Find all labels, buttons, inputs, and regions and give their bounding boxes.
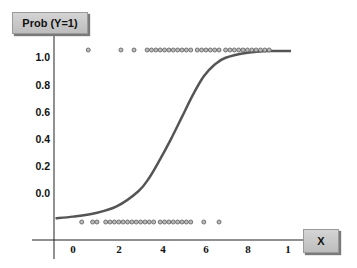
- x-tick: 4: [155, 243, 171, 255]
- data-point: [126, 220, 130, 224]
- data-point: [189, 220, 193, 224]
- data-point: [104, 220, 108, 224]
- data-point: [263, 48, 267, 52]
- data-point: [184, 220, 188, 224]
- y-tick: 0.4: [28, 133, 50, 145]
- data-point: [217, 220, 221, 224]
- data-point: [237, 48, 241, 52]
- x-tick: 2: [111, 243, 127, 255]
- x-tick: 8: [240, 243, 256, 255]
- data-point: [241, 48, 245, 52]
- data-point: [184, 48, 188, 52]
- chart-canvas: [0, 0, 357, 268]
- data-point: [180, 48, 184, 52]
- data-point: [250, 48, 254, 52]
- data-point: [154, 48, 158, 52]
- data-point: [254, 48, 258, 52]
- data-point: [171, 220, 175, 224]
- data-point: [167, 48, 171, 52]
- data-point: [152, 220, 156, 224]
- logistic-curve: [56, 51, 291, 218]
- data-point: [267, 48, 271, 52]
- data-point: [112, 220, 116, 224]
- y-tick: 0.8: [28, 79, 50, 91]
- data-point: [108, 220, 112, 224]
- data-point: [91, 220, 95, 224]
- data-point: [217, 48, 221, 52]
- data-point: [80, 220, 84, 224]
- data-point: [147, 220, 151, 224]
- y-tick: 0.2: [28, 160, 50, 172]
- data-point: [176, 48, 180, 52]
- data-point: [213, 48, 217, 52]
- x-tick: 1: [280, 243, 296, 255]
- data-point: [245, 48, 249, 52]
- data-point: [258, 48, 262, 52]
- data-point: [119, 48, 123, 52]
- data-point: [149, 48, 153, 52]
- data-point: [139, 220, 143, 224]
- x-tick: 0: [65, 243, 81, 255]
- data-point: [171, 48, 175, 52]
- data-point: [132, 48, 136, 52]
- data-point: [200, 48, 204, 52]
- data-point: [195, 48, 199, 52]
- data-point: [180, 220, 184, 224]
- y-tick: 0.6: [28, 106, 50, 118]
- data-point: [163, 220, 167, 224]
- data-point: [224, 48, 228, 52]
- data-point: [204, 48, 208, 52]
- data-point: [163, 48, 167, 52]
- data-point: [143, 220, 147, 224]
- data-point: [158, 220, 162, 224]
- data-point: [167, 220, 171, 224]
- data-point: [158, 48, 162, 52]
- data-point: [176, 220, 180, 224]
- data-point: [86, 48, 90, 52]
- x-tick: 6: [198, 243, 214, 255]
- data-point: [145, 48, 149, 52]
- data-point: [232, 48, 236, 52]
- data-point: [117, 220, 121, 224]
- y-tick: 0.0: [28, 187, 50, 199]
- fit-curve: [56, 51, 291, 218]
- data-point: [189, 48, 193, 52]
- data-point: [95, 220, 99, 224]
- x-axis-label: X: [303, 229, 339, 253]
- y-tick: 1.0: [28, 51, 50, 63]
- data-point: [130, 220, 134, 224]
- data-points: [80, 48, 271, 224]
- data-point: [208, 48, 212, 52]
- data-point: [228, 48, 232, 52]
- y-axis-label: Prob (Y=1): [12, 12, 88, 34]
- data-point: [134, 220, 138, 224]
- data-point: [202, 220, 206, 224]
- data-point: [121, 220, 125, 224]
